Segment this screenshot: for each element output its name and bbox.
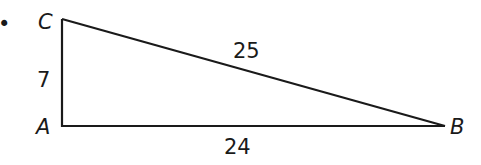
- triangle-diagram: • C A B 7 25 24: [0, 0, 481, 165]
- side-label-ca: 7: [37, 68, 50, 92]
- side-label-ab: 24: [224, 135, 251, 159]
- side-cb: [62, 19, 445, 126]
- vertex-label-a: A: [34, 115, 50, 139]
- vertex-label-b: B: [450, 115, 464, 139]
- vertex-label-c: C: [38, 10, 53, 34]
- bullet-marker: •: [0, 12, 10, 36]
- side-label-cb: 25: [233, 39, 260, 63]
